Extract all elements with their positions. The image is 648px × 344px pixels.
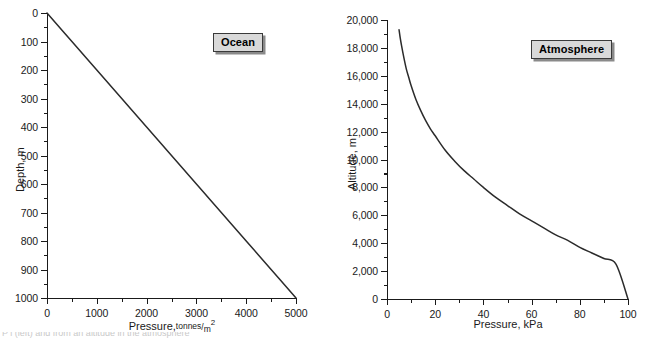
x-tick-major [435,299,436,305]
figure-caption-cropped: P l (left) and from an altitude in the a… [0,332,648,344]
atmosphere-altitude-pressure-curve [387,20,628,299]
y-tick-major [381,76,387,77]
ocean-depth-pressure-curve [47,13,296,298]
y-tick-major [41,156,47,157]
y-tick-major [41,70,47,71]
y-tick-label: 800 [21,235,38,247]
y-tick-minor [384,229,388,230]
y-tick-label: 900 [21,264,38,276]
y-tick-minor [384,62,388,63]
panel-atmosphere: 02,0004,0006,0008,00010,00012,00014,0001… [324,0,648,344]
y-axis-title-atmosphere: Altitude, m [346,138,358,190]
y-tick-major [381,48,387,49]
y-tick-major [381,271,387,272]
plot-area-atmosphere: 02,0004,0006,0008,00010,00012,00014,0001… [387,20,628,299]
y-tick-label: 4,000 [352,237,378,249]
y-tick-label: 100 [21,36,38,48]
x-tick-minor [604,299,605,303]
x-tick-minor [459,299,460,303]
x-tick-major [483,299,484,305]
y-tick-minor [44,284,48,285]
y-tick-major [381,243,387,244]
y-tick-minor [384,201,388,202]
y-tick-label: 16,000 [346,70,378,82]
y-tick-minor [384,285,388,286]
x-axis-title-atmosphere: Pressure, kPa [473,318,542,330]
y-tick-label: 300 [21,93,38,105]
y-tick-minor [384,118,388,119]
y-tick-major [41,213,47,214]
y-tick-major [381,160,387,161]
y-tick-minor [44,56,48,57]
x-tick-minor [411,299,412,303]
y-tick-minor [44,170,48,171]
y-tick-label: 18,000 [346,42,378,54]
y-tick-major [381,104,387,105]
x-tick-minor [122,298,123,302]
x-tick-label: 0 [384,308,390,320]
x-axis-unit-fraction: tonnes [176,322,202,331]
y-tick-major [41,99,47,100]
y-tick-minor [44,141,48,142]
y-tick-label: 12,000 [346,126,378,138]
callout-atmosphere: Atmosphere [531,40,612,59]
y-tick-label: 200 [21,64,38,76]
y-tick-minor [384,90,388,91]
y-tick-minor [44,27,48,28]
x-tick-minor [556,299,557,303]
y-tick-label: 700 [21,207,38,219]
y-tick-major [41,241,47,242]
x-axis-unit-numerator: tonnes [176,322,202,331]
y-tick-minor [44,113,48,114]
y-tick-label: 2,000 [352,265,378,277]
x-tick-label: 0 [44,307,50,319]
y-tick-label: 6,000 [352,209,378,221]
x-axis-title-ocean-text: Pressure, [129,320,176,332]
x-tick-minor [72,298,73,302]
y-tick-major [41,127,47,128]
x-tick-major [147,298,148,304]
x-tick-label: 100 [619,308,636,320]
x-tick-minor [221,298,222,302]
x-tick-major [246,298,247,304]
x-tick-minor [508,299,509,303]
x-tick-label: 80 [574,308,585,320]
y-tick-label: 0 [32,7,38,19]
y-tick-minor [384,146,388,147]
x-tick-major [296,298,297,304]
y-tick-minor [384,257,388,258]
y-tick-label: 14,000 [346,98,378,110]
x-tick-minor [271,298,272,302]
y-tick-major [41,184,47,185]
figure-two-panel-pressure-charts: 0100200300400500600700800900100001000200… [0,0,648,344]
y-tick-major [41,270,47,271]
x-tick-major [628,299,629,305]
y-tick-minor [384,173,388,174]
y-tick-major [381,20,387,21]
y-axis-title-ocean: Depth, m [14,147,26,192]
y-tick-minor [44,227,48,228]
y-tick-major [381,215,387,216]
x-axis-title-ocean: Pressure,tonnes/m2 [129,318,216,332]
y-tick-minor [44,198,48,199]
x-tick-major [196,298,197,304]
y-tick-major [41,42,47,43]
panel-ocean: 0100200300400500600700800900100001000200… [0,0,324,344]
x-tick-major [580,299,581,305]
y-tick-label: 20,000 [346,14,378,26]
y-tick-minor [44,84,48,85]
y-tick-minor [384,34,388,35]
plot-area-ocean: 0100200300400500600700800900100001000200… [47,13,296,298]
x-tick-major [387,299,388,305]
y-tick-label: 1000 [15,292,38,304]
x-axis-unit-exponent: 2 [211,318,215,327]
x-tick-major [47,298,48,304]
y-tick-label: 400 [21,121,38,133]
x-tick-label: 4000 [235,307,258,319]
x-tick-minor [172,298,173,302]
y-tick-major [41,13,47,14]
x-tick-major [97,298,98,304]
callout-ocean: Ocean [213,33,263,52]
x-tick-label: 5000 [285,307,308,319]
y-tick-major [381,187,387,188]
